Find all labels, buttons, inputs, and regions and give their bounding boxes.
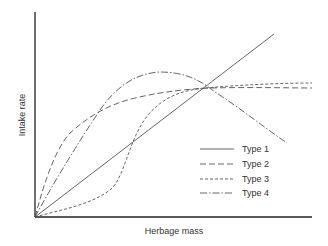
x-axis-label: Herbage mass (145, 226, 204, 236)
legend: Type 1 Type 2 Type 3 Type 4 (200, 144, 269, 198)
y-axis-label: Intake rate (17, 94, 27, 137)
legend-label-type-4: Type 4 (242, 188, 269, 198)
series-type-3 (35, 83, 312, 217)
series-type-2 (35, 88, 312, 217)
chart: Type 1 Type 2 Type 3 Type 4 Herbage mass… (0, 0, 328, 246)
legend-label-type-3: Type 3 (242, 174, 269, 184)
series-type-1 (35, 34, 274, 217)
legend-label-type-2: Type 2 (242, 159, 269, 169)
legend-label-type-1: Type 1 (242, 144, 269, 154)
